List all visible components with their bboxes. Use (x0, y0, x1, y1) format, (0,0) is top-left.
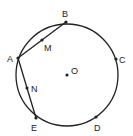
label-o: O (71, 66, 78, 76)
point-n (25, 86, 28, 89)
point-e (34, 116, 37, 119)
label-b: B (62, 9, 68, 19)
label-d: D (94, 123, 101, 133)
label-n: N (31, 84, 38, 94)
point-m (40, 38, 43, 41)
label-e: E (31, 123, 37, 133)
point-d (94, 115, 97, 118)
point-a (16, 56, 19, 59)
point-c (114, 57, 117, 60)
points: BCDEAMNO (7, 9, 126, 133)
point-b (64, 20, 67, 23)
label-m: M (44, 43, 52, 53)
point-o (65, 73, 68, 76)
geometry-diagram: BCDEAMNO (0, 0, 133, 136)
label-a: A (7, 54, 13, 64)
label-c: C (119, 55, 126, 65)
